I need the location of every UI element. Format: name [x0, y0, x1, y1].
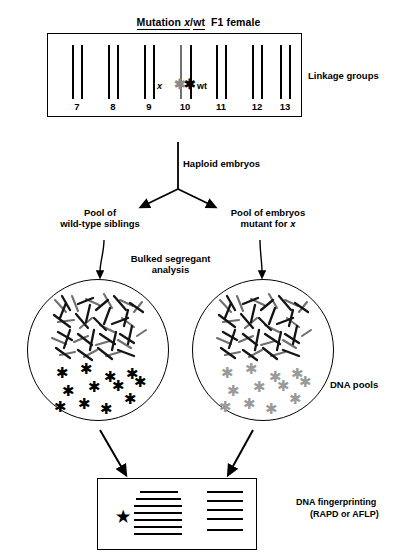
gel-band — [207, 529, 243, 531]
marker-star-wildtype: ✱ — [184, 77, 196, 91]
bulked-line2: analysis — [152, 264, 190, 275]
title-wt: wt — [193, 16, 205, 30]
linkage-group-number: 11 — [209, 101, 233, 112]
right-pool-label: Pool of embryos mutant for x — [208, 207, 328, 229]
chromosome-bar — [72, 45, 74, 99]
right-pool-line1: Pool of embryos — [231, 207, 305, 218]
chromosome-bar — [108, 45, 110, 99]
gel-polymorphic-star: ★ — [116, 509, 130, 525]
linkage-group-number: 8 — [101, 101, 125, 112]
right-pool-line2-allele: x — [290, 218, 295, 229]
chromosome-bar — [216, 45, 218, 99]
right-pool-line2-prefix: mutant for — [241, 218, 288, 229]
marker-label-wildtype: wt — [197, 81, 207, 91]
fingerprinting-line2: (RAPD or AFLP) — [296, 508, 379, 520]
gel-box: ★ — [97, 478, 257, 550]
chromosome-bar — [153, 45, 155, 99]
bulked-segregant-analysis-figure: Mutation x/wt F1 female x ✱ ✱ wt 7 8 9 1… — [0, 0, 397, 560]
gel-band — [207, 509, 243, 511]
marker-label-mutant: x — [157, 81, 162, 91]
left-pool-line1: Pool of — [84, 207, 116, 218]
chromosome-bar — [117, 45, 119, 99]
haploid-embryos-label: Haploid embryos — [183, 158, 260, 169]
flow-arrow-haploid — [147, 142, 209, 204]
linkage-groups-box: x ✱ ✱ wt 7 8 9 10 11 12 13 — [47, 33, 302, 117]
gel-band — [140, 491, 178, 493]
linkage-group-number: 9 — [137, 101, 161, 112]
linkage-group-number: 12 — [245, 101, 269, 112]
chromosome-bar — [261, 45, 263, 99]
dna-pools-side-label: DNA pools — [330, 379, 378, 390]
gel-band — [207, 518, 243, 520]
title-mutation-word: Mutation — [137, 16, 182, 28]
chromosome-bar — [144, 45, 146, 99]
bulked-line1: Bulked segregant — [131, 253, 211, 264]
gel-band-polymorphic — [134, 512, 182, 514]
fingerprinting-line1: DNA fingerprinting — [296, 497, 376, 507]
title-generation: F1 female — [211, 16, 260, 28]
dna-fingerprinting-label: DNA fingerprinting (RAPD or AFLP) — [296, 496, 379, 520]
chromosome-bar — [225, 45, 227, 99]
figure-title: Mutation x/wt F1 female — [0, 16, 397, 28]
linkage-groups-side-label: Linkage groups — [308, 70, 379, 81]
linkage-group-number: 7 — [65, 101, 89, 112]
chromosome-bar — [81, 45, 83, 99]
dna-pool-circle-mutant — [192, 279, 334, 421]
gel-band — [207, 491, 243, 493]
gel-band — [207, 500, 243, 502]
chromosome-bar — [252, 45, 254, 99]
gel-band — [136, 498, 181, 500]
left-pool-label: Pool of wild-type siblings — [40, 207, 160, 229]
chromosome-bar — [280, 45, 282, 99]
gel-band — [134, 533, 182, 535]
linkage-group-number: 13 — [273, 101, 297, 112]
flow-arrow-to-gel — [100, 430, 253, 468]
chromosome-bar — [289, 45, 291, 99]
gel-band — [134, 519, 182, 521]
dna-pool-circle-wildtype — [27, 279, 169, 421]
left-pool-line2: wild-type siblings — [60, 218, 140, 229]
bulked-segregant-analysis-label: Bulked segregant analysis — [108, 253, 233, 275]
gel-band — [134, 526, 182, 528]
gel-band — [134, 505, 182, 507]
linkage-group-number: 10 — [173, 101, 197, 112]
